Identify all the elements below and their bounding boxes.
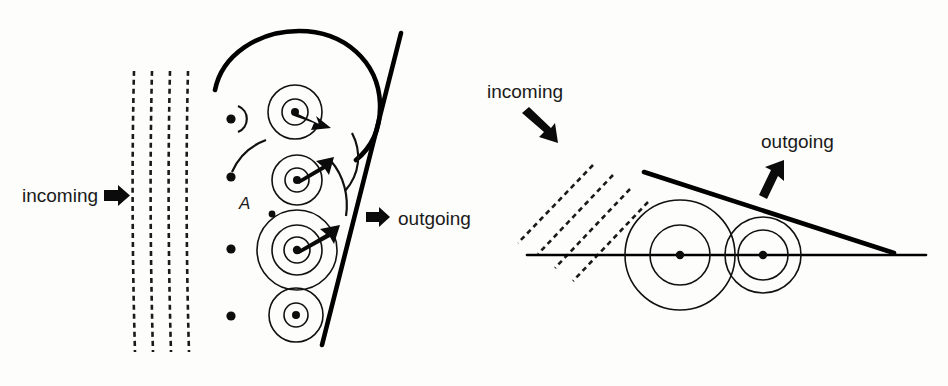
source-point [226,114,235,123]
wavelet-center-dot [292,311,300,319]
right-outgoing-label: outgoing [761,131,834,152]
left-incoming-label: incoming [22,185,98,206]
source-point [226,311,235,320]
right-incoming-label: incoming [487,81,563,102]
wavelet-center-dot [759,251,767,259]
left-point-a-label: A [238,194,250,213]
source-point [226,244,235,253]
figure-background [0,0,948,386]
huygens-principle-figure: incoming [0,0,948,386]
point-a-marker [269,211,276,218]
figure-canvas: incoming [0,0,948,386]
source-point [226,172,235,181]
wavelet-center-dot [676,251,684,259]
left-outgoing-label: outgoing [398,208,471,229]
